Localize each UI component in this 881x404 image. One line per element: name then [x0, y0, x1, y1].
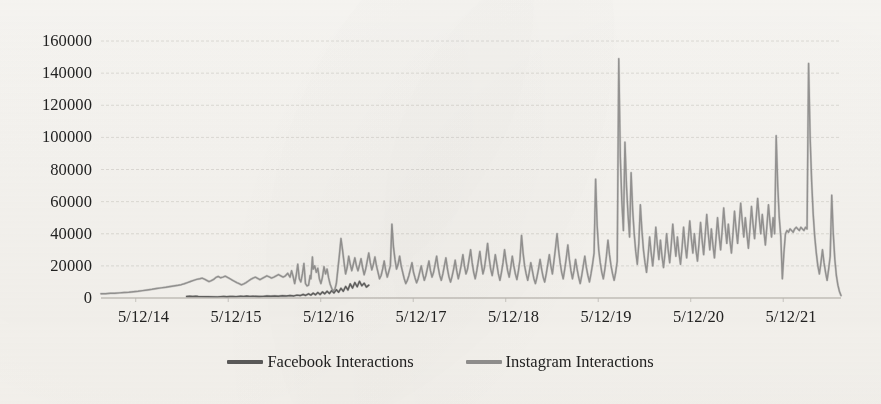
chart-legend: Facebook InteractionsInstagram Interacti… — [0, 352, 881, 372]
y-axis-tick-label: 0 — [0, 288, 92, 308]
y-axis-tick-label: 120000 — [0, 95, 92, 115]
legend-entry[interactable]: Instagram Interactions — [466, 352, 654, 372]
y-axis-tick-label: 20000 — [0, 256, 92, 276]
y-axis-tick-label: 40000 — [0, 224, 92, 244]
x-axis-tick-label: 5/12/21 — [736, 307, 846, 327]
legend-line-swatch — [227, 360, 263, 364]
y-axis-tick-label: 80000 — [0, 160, 92, 180]
chart-plot-area — [0, 0, 881, 404]
y-axis-tick-label: 100000 — [0, 127, 92, 147]
legend-label: Facebook Interactions — [267, 352, 413, 372]
y-axis-tick-label: 60000 — [0, 192, 92, 212]
legend-entry[interactable]: Facebook Interactions — [227, 352, 413, 372]
chart-container: 1600001400001200001000008000060000400002… — [0, 0, 881, 404]
legend-label: Instagram Interactions — [506, 352, 654, 372]
y-axis-tick-label: 140000 — [0, 63, 92, 83]
legend-line-swatch — [466, 360, 502, 364]
y-axis-tick-label: 160000 — [0, 31, 92, 51]
